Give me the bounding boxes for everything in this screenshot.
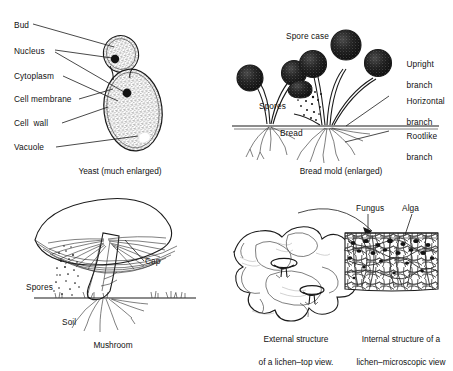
caption-internal-line2: lichen–microscopic view <box>356 357 445 367</box>
caption-external-line1: External structure <box>263 334 328 344</box>
panel-lichen: Fungus Alga <box>226 183 453 366</box>
lichen-external <box>234 227 359 321</box>
apothecium-2 <box>300 286 324 305</box>
caption-lichen-external: External structure of a lichen–top view. <box>228 322 350 371</box>
apothecium-1 <box>271 258 297 278</box>
mushroom-cap <box>35 198 172 265</box>
yeast-nucleus-bud <box>111 55 119 63</box>
caption-external-line2: of a lichen–top view. <box>259 357 334 367</box>
caption-internal-line1: Internal structure of a <box>362 334 440 344</box>
mushroom-roots <box>72 299 148 332</box>
panel-yeast: Bud Nucleus Cytoplasm Cell membrane Cell… <box>0 0 226 183</box>
caption-mushroom: Mushroom <box>48 340 178 351</box>
panel-mushroom: Cap Spores Soil <box>0 183 226 366</box>
mushroom-drawing <box>0 183 226 366</box>
yeast-nucleus-body <box>123 89 132 98</box>
yeast-drawing <box>0 0 226 183</box>
mold-clump-left <box>237 61 307 161</box>
grass-tufts <box>55 291 185 298</box>
caption-yeast: Yeast (much enlarged) <box>50 166 190 177</box>
leader-alga <box>405 214 412 235</box>
bread-mold-drawing <box>226 0 453 183</box>
panel-bread-mold: Spore case Spores Bread Upright branch H… <box>226 0 453 183</box>
leader-horizontal <box>346 96 389 126</box>
caption-bread-mold: Bread mold (enlarged) <box>266 166 416 177</box>
mold-clump-right <box>288 30 392 163</box>
lichen-internal <box>345 233 438 291</box>
caption-lichen-internal: Internal structure of a lichen–microscop… <box>334 322 453 371</box>
